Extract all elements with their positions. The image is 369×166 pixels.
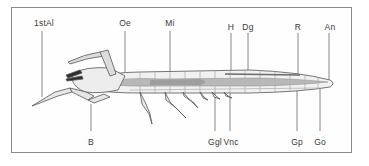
larva-body	[88, 70, 333, 93]
label-ventral-nerve-cord: Vnc	[223, 138, 238, 147]
label-anus: An	[325, 23, 336, 32]
label-genital-pore: Gp	[291, 138, 303, 147]
label-heart: H	[228, 23, 234, 32]
larva-legs	[140, 92, 232, 124]
label-midgut: Mi	[165, 19, 174, 28]
label-brain: B	[88, 138, 94, 147]
label-first-antenna: 1stAl	[34, 19, 54, 28]
label-ganglion: Ggl	[208, 138, 222, 147]
label-rectum: R	[295, 23, 301, 32]
label-gonad: Go	[314, 138, 326, 147]
label-oesophagus: Oe	[119, 19, 131, 28]
larva-head	[32, 50, 125, 106]
label-digestive-gland: Dg	[242, 23, 253, 32]
